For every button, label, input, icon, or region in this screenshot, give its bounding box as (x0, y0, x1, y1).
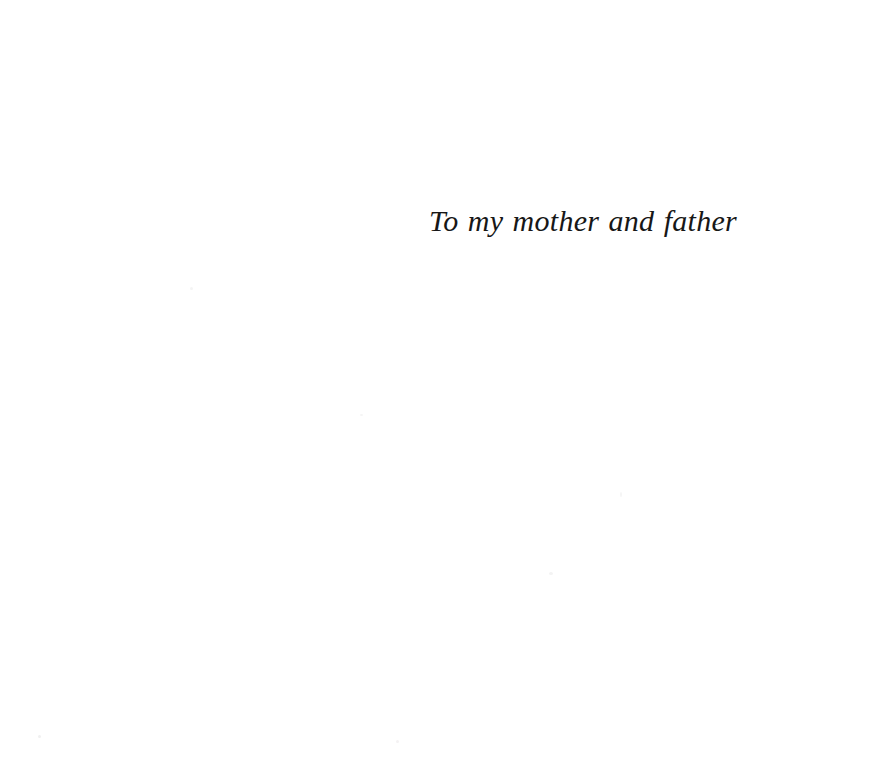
dedication-text: To my mother and father (429, 203, 737, 238)
scan-speck (396, 740, 399, 743)
scan-speck (620, 492, 622, 497)
scan-speck (190, 287, 193, 290)
scan-speck (38, 735, 41, 738)
scan-speck (549, 572, 553, 575)
dedication-block: To my mother and father (0, 203, 887, 238)
scan-speck (360, 414, 363, 416)
dedication-page: To my mother and father (0, 0, 887, 765)
